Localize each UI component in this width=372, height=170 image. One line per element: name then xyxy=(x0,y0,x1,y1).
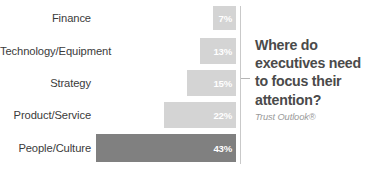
callout-source-attribution: Trust Outlook® xyxy=(255,112,372,122)
bar-row: Product/Service 22% xyxy=(0,102,236,128)
callout-panel: Where do executives need to focus their … xyxy=(255,36,372,122)
bar-value-label: 15% xyxy=(213,78,232,89)
bar-value-label: 43% xyxy=(213,143,232,154)
bar-value-label: 13% xyxy=(213,46,232,57)
bar-category-label: People/Culture xyxy=(18,142,96,154)
bar-row: Strategy 15% xyxy=(0,70,236,96)
callout-heading: Where do executives need to focus their … xyxy=(255,36,372,109)
bar-row: Finance 7% xyxy=(0,6,236,30)
bar-category-label: Strategy xyxy=(50,77,96,89)
vertical-divider xyxy=(240,6,241,164)
infographic-root: Finance 7% Technology/Equipment 13% Stra… xyxy=(0,0,372,170)
bar-value-label: 22% xyxy=(213,110,232,121)
bar-track: 43% xyxy=(96,134,236,162)
bar-fill[interactable]: 22% xyxy=(164,102,236,128)
bar-track: 7% xyxy=(96,6,236,30)
bar-category-label: Product/Service xyxy=(14,109,96,121)
bar-fill[interactable]: 7% xyxy=(213,6,236,30)
bar-row: Technology/Equipment 13% xyxy=(0,38,236,64)
bar-category-label: Finance xyxy=(52,12,96,24)
bar-track: 15% xyxy=(96,70,236,96)
bar-fill[interactable]: 43% xyxy=(96,134,236,162)
bar-chart: Finance 7% Technology/Equipment 13% Stra… xyxy=(0,0,236,170)
bar-track: 13% xyxy=(116,38,236,64)
divider-tick-mark xyxy=(241,78,250,79)
bar-value-label: 7% xyxy=(219,13,232,24)
bar-fill[interactable]: 15% xyxy=(187,70,236,96)
bar-category-label: Technology/Equipment xyxy=(0,45,116,57)
bar-row: People/Culture 43% xyxy=(0,134,236,162)
bar-track: 22% xyxy=(96,102,236,128)
bar-fill[interactable]: 13% xyxy=(200,38,236,64)
